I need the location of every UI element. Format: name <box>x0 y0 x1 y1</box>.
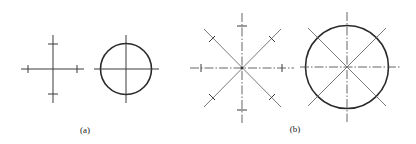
panel-b-circle <box>300 12 401 122</box>
panel-b-star <box>190 13 294 123</box>
tick-diag-tr <box>269 36 275 42</box>
figure-canvas: (a) (b) <box>0 0 416 144</box>
panel-a-cross <box>21 35 84 103</box>
panel-a-label: (a) <box>80 125 90 135</box>
panel-a-circle <box>94 35 159 103</box>
panel-b-label: (b) <box>290 124 301 134</box>
tick-diag-br <box>269 94 275 100</box>
star-center-dot <box>241 67 244 70</box>
